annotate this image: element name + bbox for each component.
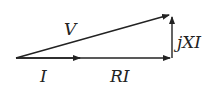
jxi-label: jXI <box>173 32 201 52</box>
v-vector <box>16 15 169 58</box>
v-label: V <box>64 19 78 39</box>
phasor-diagram: V I RI jXI <box>0 0 221 96</box>
i-label: I <box>39 66 47 86</box>
ri-label: RI <box>109 66 130 86</box>
